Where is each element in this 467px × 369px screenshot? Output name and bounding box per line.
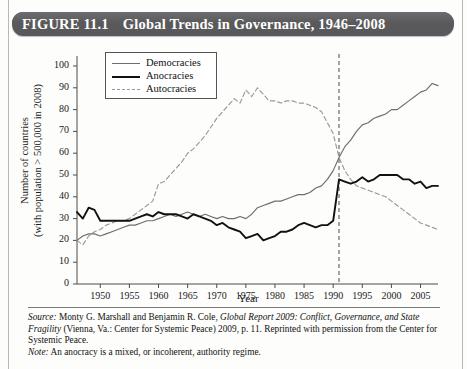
y-tick-40: 40 <box>39 190 69 201</box>
x-tick-1950: 1950 <box>84 290 116 301</box>
y-tick-60: 60 <box>39 146 69 157</box>
note-label: Note: <box>28 347 49 357</box>
legend-item-autocracies: Autocracies <box>111 82 212 95</box>
x-tick-1980: 1980 <box>259 290 291 301</box>
x-tick-1975: 1975 <box>230 290 262 301</box>
explanatory-note: Note: An anocracy is a mixed, or incoher… <box>28 347 440 359</box>
source-label: Source: <box>28 312 57 322</box>
y-tick-0: 0 <box>39 277 69 288</box>
x-tick-1955: 1955 <box>113 290 145 301</box>
y-tick-20: 20 <box>39 233 69 244</box>
line-chart-plot <box>0 38 467 308</box>
legend-line-anocracies-icon <box>111 70 141 81</box>
legend-line-autocracies-icon <box>111 83 141 94</box>
footer-divider <box>28 307 440 308</box>
y-tick-70: 70 <box>39 124 69 135</box>
figure-title-text: Global Trends in Governance, 1946–2008 <box>123 16 386 32</box>
series-line-autocracies <box>77 88 438 245</box>
figure-number: FIGURE 11.1 <box>22 16 109 32</box>
note-text: An anocracy is a mixed, or incoherent, a… <box>49 347 261 357</box>
y-tick-30: 30 <box>39 212 69 223</box>
source-text-2: (Vienna, Va.: Center for Systemic Peace)… <box>28 324 437 346</box>
figure-container: FIGURE 11.1Global Trends in Governance, … <box>0 0 467 369</box>
y-tick-80: 80 <box>39 103 69 114</box>
chart-legend: Democracies Anocracies Autocracies <box>105 52 217 99</box>
x-tick-2000: 2000 <box>375 290 407 301</box>
source-text-1: Monty G. Marshall and Benjamin R. Cole, <box>57 312 220 322</box>
x-tick-1960: 1960 <box>143 290 175 301</box>
x-tick-1990: 1990 <box>317 290 349 301</box>
legend-label-anocracies: Anocracies <box>141 70 193 81</box>
y-tick-50: 50 <box>39 168 69 179</box>
figure-title: FIGURE 11.1Global Trends in Governance, … <box>22 13 385 35</box>
y-tick-90: 90 <box>39 81 69 92</box>
legend-line-democracies-icon <box>111 57 141 68</box>
figure-footnote: Source: Monty G. Marshall and Benjamin R… <box>28 312 440 358</box>
x-tick-1965: 1965 <box>172 290 204 301</box>
chart-area: Number of countries (with population > 5… <box>0 38 467 308</box>
y-tick-10: 10 <box>39 255 69 266</box>
y-tick-100: 100 <box>39 59 69 70</box>
legend-item-democracies: Democracies <box>111 56 212 69</box>
x-tick-1995: 1995 <box>346 290 378 301</box>
source-note: Source: Monty G. Marshall and Benjamin R… <box>28 312 440 347</box>
legend-item-anocracies: Anocracies <box>111 69 212 82</box>
x-tick-2005: 2005 <box>405 290 437 301</box>
legend-label-democracies: Democracies <box>141 57 201 68</box>
series-line-democracies <box>77 83 438 240</box>
x-tick-1985: 1985 <box>288 290 320 301</box>
legend-label-autocracies: Autocracies <box>141 83 196 94</box>
x-tick-1970: 1970 <box>201 290 233 301</box>
